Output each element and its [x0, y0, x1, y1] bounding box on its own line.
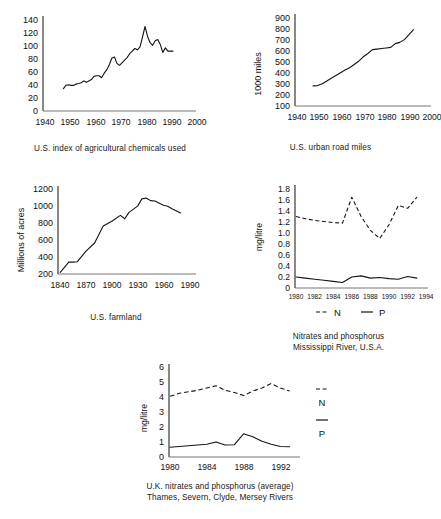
y-tick-600: 600: [38, 235, 53, 245]
x-axis-tick-labels: 1840 1870 1900 1930 1960 1990: [50, 280, 199, 290]
x-axis-tick-labels: 1940 1950 1960 1970 1980 1990 2000: [35, 117, 206, 127]
y-tick-200: 200: [38, 269, 53, 279]
y-tick-500: 500: [275, 57, 290, 67]
legend-label-N: N: [334, 307, 341, 318]
legend-label-P: P: [319, 428, 325, 439]
x-tick-1900: 1900: [102, 280, 121, 290]
y-tick-60: 60: [28, 67, 38, 77]
x-tick-1980: 1980: [137, 117, 156, 127]
x-tick-1970: 1970: [111, 117, 130, 127]
x-tick-1988: 1988: [363, 293, 378, 300]
y-tick-0-6: 0.6: [278, 250, 290, 260]
y-axis-label: Millions of acres: [16, 207, 26, 272]
y-axis-label: mg/litre: [254, 223, 264, 251]
series-N-line: [296, 197, 417, 238]
y-tick-200: 200: [275, 90, 290, 100]
x-tick-1960: 1960: [332, 112, 351, 122]
x-tick-1980: 1980: [160, 462, 179, 472]
y-tick-1-0: 1.0: [278, 228, 290, 238]
caption-line: Mississippi River, U.S.A.: [236, 343, 441, 354]
series-N-line: [170, 384, 290, 397]
figure-us-urban-road-miles: 1000 miles 900 800 700 600 500 400 300 2…: [220, 0, 441, 154]
x-axis-tick-labels: 1980 1982 1984 1986 1988 1990 1992 1994: [289, 293, 434, 300]
legend: N P: [316, 389, 328, 439]
caption-line: U.K. nitrates and phosphorus (average): [104, 482, 336, 493]
x-tick-2000: 2000: [187, 117, 206, 127]
y-tick-1-6: 1.6: [278, 195, 290, 205]
legend: N P: [316, 307, 385, 318]
x-tick-1950: 1950: [60, 117, 79, 127]
x-tick-1870: 1870: [76, 280, 95, 290]
figure-uk-nitrates-phosphorus: mg/litre 6 5 4 3 2 1 0 1980 1984 1988 19…: [104, 356, 362, 503]
x-tick-1970: 1970: [355, 112, 374, 122]
chart-us-agricultural-chemicals: 140 120 100 80 60 40 20 0 1940 1950 1960…: [0, 2, 220, 130]
x-tick-1990: 1990: [162, 117, 181, 127]
x-tick-1930: 1930: [128, 280, 147, 290]
y-tick-800: 800: [275, 24, 290, 34]
caption-line: U.S. farmland: [4, 313, 228, 324]
series-urban-road-miles-line: [313, 30, 413, 86]
x-tick-1992: 1992: [271, 462, 290, 472]
figure-mississippi-nitrates-phosphorus: mg/litre 1.8 1.6 1.4 1.2 1.0 0.8 0.6 0.4…: [218, 174, 441, 353]
x-tick-1840: 1840: [50, 280, 69, 290]
chart-mississippi-nitrates-phosphorus: mg/litre 1.8 1.6 1.4 1.2 1.0 0.8 0.6 0.4…: [218, 174, 441, 326]
caption-line: U.S. urban road miles: [220, 143, 441, 154]
x-tick-1984: 1984: [197, 462, 216, 472]
y-axis-tick-labels: 1.8 1.6 1.4 1.2 1.0 0.8 0.6 0.4 0.2 0: [278, 184, 290, 293]
x-tick-1988: 1988: [234, 462, 253, 472]
x-tick-1960: 1960: [154, 280, 173, 290]
y-axis-tick-labels: 900 800 700 600 500 400 300 200 100: [275, 13, 290, 111]
chart-us-farmland: Millions of acres 1200 1000 800 600 400 …: [0, 172, 228, 304]
y-tick-140: 140: [23, 15, 38, 25]
figure-us-agricultural-chemicals: 140 120 100 80 60 40 20 0 1940 1950 1960…: [0, 2, 220, 155]
series-P-line: [296, 276, 417, 283]
x-tick-1982: 1982: [307, 293, 322, 300]
y-tick-300: 300: [275, 79, 290, 89]
x-tick-1986: 1986: [344, 293, 359, 300]
y-tick-120: 120: [23, 28, 38, 38]
caption-line: Nitrates and phosphorus: [236, 332, 441, 343]
x-tick-1950: 1950: [309, 112, 328, 122]
caption-us-urban-road-miles: U.S. urban road miles: [220, 143, 441, 154]
caption-mississippi-nitrates-phosphorus: Nitrates and phosphorus Mississippi Rive…: [218, 332, 441, 353]
y-tick-0: 0: [159, 452, 164, 462]
caption-line: Thames, Severn, Clyde, Mersey Rivers: [104, 493, 336, 504]
y-tick-0: 0: [285, 283, 290, 293]
caption-us-agricultural-chemicals: U.S. index of agricultural chemicals use…: [0, 144, 220, 155]
caption-us-farmland: U.S. farmland: [0, 313, 228, 324]
x-tick-1940: 1940: [287, 112, 306, 122]
x-tick-2000: 2000: [422, 112, 441, 122]
x-tick-1990: 1990: [400, 112, 419, 122]
y-tick-3: 3: [159, 407, 164, 417]
y-axis-tick-labels: 1200 1000 800 600 400 200: [33, 184, 53, 279]
x-tick-1960: 1960: [86, 117, 105, 127]
y-tick-20: 20: [28, 93, 38, 103]
y-tick-5: 5: [159, 377, 164, 387]
y-tick-800: 800: [38, 218, 53, 228]
y-tick-80: 80: [28, 54, 38, 64]
y-axis-label: mg/litre: [139, 404, 149, 432]
y-axis-tick-labels: 6 5 4 3 2 1 0: [159, 362, 164, 462]
series-farmland-line: [60, 198, 180, 272]
y-axis-label: 1000 miles: [253, 52, 263, 96]
y-axis-tick-labels: 140 120 100 80 60 40 20 0: [23, 15, 38, 116]
y-tick-900: 900: [275, 13, 290, 23]
y-tick-4: 4: [159, 392, 164, 402]
y-tick-0-4: 0.4: [278, 261, 290, 271]
y-tick-1: 1: [159, 437, 164, 447]
y-tick-1200: 1200: [33, 184, 53, 194]
y-tick-100: 100: [275, 101, 290, 111]
y-tick-0-2: 0.2: [278, 272, 290, 282]
y-tick-400: 400: [38, 252, 53, 262]
caption-line: U.S. index of agricultural chemicals use…: [0, 144, 220, 155]
legend-label-N: N: [319, 397, 326, 408]
x-tick-1992: 1992: [400, 293, 415, 300]
x-tick-1994: 1994: [419, 293, 434, 300]
chart-us-urban-road-miles: 1000 miles 900 800 700 600 500 400 300 2…: [220, 0, 441, 134]
x-tick-1990: 1990: [382, 293, 397, 300]
y-tick-0-8: 0.8: [278, 239, 290, 249]
x-axis-tick-labels: 1980 1984 1988 1992: [160, 462, 290, 472]
y-tick-40: 40: [28, 80, 38, 90]
y-tick-1-4: 1.4: [278, 206, 290, 216]
y-tick-6: 6: [159, 362, 164, 372]
